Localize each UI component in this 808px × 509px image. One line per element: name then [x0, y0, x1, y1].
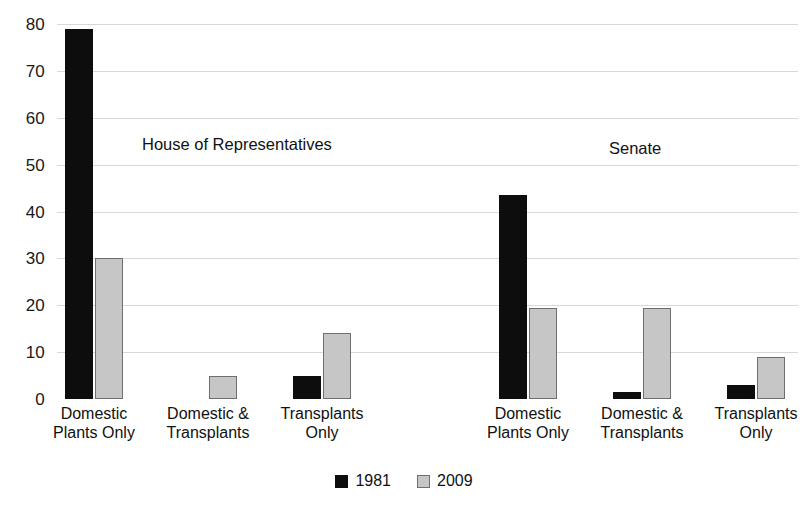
- bar: [293, 376, 321, 399]
- legend-label: 2009: [437, 473, 473, 489]
- y-axis-tick-label: 40: [0, 212, 45, 229]
- panel-title: House of Representatives: [142, 136, 332, 153]
- y-axis-tick-label: 10: [0, 352, 45, 369]
- plot-area: [57, 24, 798, 399]
- x-axis-category-label: Transplants Only: [252, 404, 392, 442]
- bar: [727, 385, 755, 399]
- legend-swatch: [335, 475, 348, 488]
- y-axis-tick-label: 70: [0, 71, 45, 88]
- gridline: [57, 305, 798, 306]
- gridline: [57, 24, 798, 25]
- gridline: [57, 165, 798, 166]
- bar: [757, 357, 785, 399]
- y-axis-tick-label: 30: [0, 258, 45, 275]
- bar: [643, 308, 671, 399]
- gridline: [57, 71, 798, 72]
- y-axis-tick-label: 50: [0, 165, 45, 182]
- legend-label: 1981: [355, 473, 391, 489]
- gridline: [57, 258, 798, 259]
- bar: [323, 333, 351, 399]
- legend-item: 1981: [335, 473, 391, 489]
- gridline: [57, 118, 798, 119]
- bar: [95, 258, 123, 399]
- y-axis-tick-label: 80: [0, 24, 45, 41]
- bar: [65, 29, 93, 399]
- x-axis-category-label: Transplants Only: [686, 404, 808, 442]
- bar: [499, 195, 527, 399]
- legend-item: 2009: [417, 473, 473, 489]
- gridline: [57, 352, 798, 353]
- gridline: [57, 212, 798, 213]
- bar: [613, 392, 641, 399]
- bar: [529, 308, 557, 399]
- bar-chart: 01020304050607080 House of Representativ…: [0, 0, 808, 509]
- legend: 19812009: [0, 473, 808, 489]
- panel-title: Senate: [609, 140, 661, 157]
- legend-swatch: [417, 475, 430, 488]
- bar: [209, 376, 237, 399]
- y-axis-tick-label: 60: [0, 118, 45, 135]
- y-axis-tick-label: 20: [0, 305, 45, 322]
- axis-baseline: [57, 399, 798, 400]
